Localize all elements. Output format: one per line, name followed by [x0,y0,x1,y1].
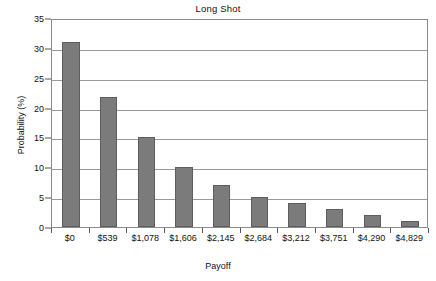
bar [175,167,192,227]
bar [138,137,155,227]
chart-figure: Long Shot Probability (%) 05101520253035… [0,0,436,281]
x-tick-label: $0 [65,233,75,243]
x-tick-mark [164,228,165,233]
bar [364,215,381,227]
x-tick-label: $4,290 [358,233,386,243]
x-tick-mark [51,228,52,233]
y-tick-mark [45,48,51,49]
gridline [52,50,427,51]
x-tick-label: $4,829 [395,233,423,243]
x-tick-label: $3,751 [320,233,348,243]
y-tick-label: 35 [4,14,44,24]
x-tick-mark [240,228,241,233]
y-tick-mark [45,168,51,169]
bar [251,197,268,227]
y-tick-label: 10 [4,163,44,173]
x-tick-label: $3,212 [282,233,310,243]
x-tick-label: $2,684 [245,233,273,243]
bar [100,97,117,227]
x-tick-label: $2,145 [207,233,235,243]
x-axis-title: Payoff [0,261,436,271]
x-tick-mark [315,228,316,233]
x-tick-mark [126,228,127,233]
y-tick-mark [45,108,51,109]
y-tick-label: 0 [4,223,44,233]
x-tick-mark [353,228,354,233]
bar [62,42,79,227]
bar [288,203,305,227]
x-tick-mark [277,228,278,233]
y-tick-mark [45,19,51,20]
plot-area [51,19,428,228]
y-tick-label: 5 [4,193,44,203]
x-tick-mark [202,228,203,233]
y-tick-label: 30 [4,44,44,54]
x-tick-mark [89,228,90,233]
x-tick-mark [428,228,429,233]
gridline [52,80,427,81]
chart-title: Long Shot [0,3,436,14]
x-tick-label: $539 [98,233,118,243]
bar [213,185,230,227]
y-tick-label: 25 [4,74,44,84]
bar [401,221,418,227]
y-tick-label: 20 [4,104,44,114]
bar [326,209,343,227]
y-tick-mark [45,198,51,199]
y-tick-mark [45,78,51,79]
x-tick-mark [390,228,391,233]
x-tick-label: $1,606 [169,233,197,243]
x-tick-label: $1,078 [131,233,159,243]
y-tick-mark [45,138,51,139]
y-tick-label: 15 [4,133,44,143]
